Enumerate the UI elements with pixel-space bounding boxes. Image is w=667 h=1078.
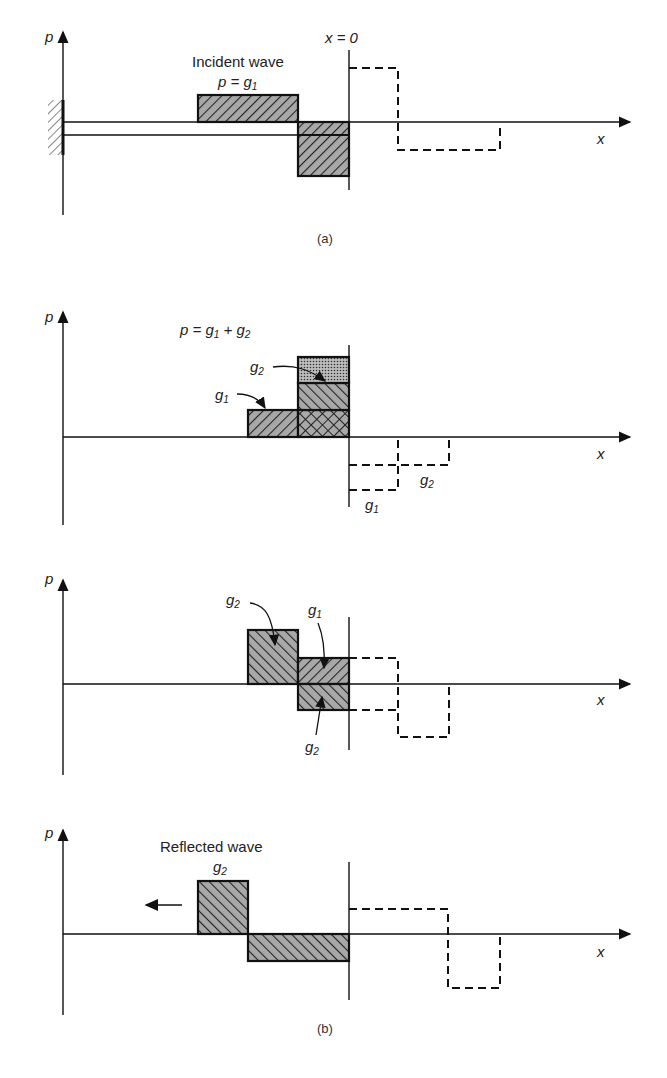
dashed-g1-label: g1 — [365, 496, 379, 515]
panel-b1: p x p = g1 + g2 g2 g1 g2 g1 — [44, 308, 630, 525]
superposition-eq: p = g1 + g2 — [179, 321, 251, 340]
incident-pulse-negative — [298, 122, 349, 176]
g2-bottom-label: g2 — [305, 738, 319, 757]
g2-reflected-pulse — [248, 630, 298, 684]
g2-top-label: g2 — [226, 591, 240, 610]
incident-wave-title: Incident wave — [192, 53, 284, 70]
virtual-upper-dashed — [349, 658, 449, 737]
g2-label: g2 — [250, 358, 264, 377]
g2-cancel-part — [298, 684, 349, 710]
x-axis-label: x — [596, 130, 605, 147]
dashed-g2-label: g2 — [420, 471, 434, 490]
caption-a: (a) — [317, 231, 333, 246]
x-axis-label: x — [596, 943, 605, 960]
panel-b3: p x Reflected wave g2 (b) — [44, 824, 630, 1036]
panel-a: p x x = 0 Incident wave p = g1 (a) — [44, 28, 630, 246]
p-axis-label: p — [44, 824, 53, 841]
reflected-pulse-negative — [248, 934, 349, 961]
wave-reflection-diagram: p x x = 0 Incident wave p = g1 (a) p x p… — [0, 0, 667, 1078]
virtual-wave-dashed — [349, 68, 500, 150]
reflected-wave-title: Reflected wave — [160, 838, 263, 855]
overlap-region — [298, 410, 349, 437]
g2-reflected-part — [298, 383, 349, 410]
g1-pointer-arrow — [237, 394, 265, 408]
boundary-label: x = 0 — [324, 29, 359, 46]
g1-remaining-part — [298, 658, 349, 684]
caption-b: (b) — [317, 1021, 333, 1036]
incident-pulse-positive — [198, 95, 298, 122]
p-axis-label: p — [44, 28, 53, 45]
virtual-wave-dashed — [349, 909, 500, 988]
x-axis-label: x — [596, 691, 605, 708]
reflected-pulse-positive — [198, 881, 248, 934]
rigid-wall — [48, 100, 63, 155]
p-axis-label: p — [44, 570, 53, 587]
incident-wave-eq: p = g1 — [217, 73, 257, 92]
g1-label: g1 — [215, 386, 229, 405]
panel-b2: p x g2 g1 g2 — [44, 570, 630, 775]
x-axis-label: x — [596, 445, 605, 462]
g2-label: g2 — [213, 858, 227, 877]
p-axis-label: p — [44, 308, 53, 325]
g1-label: g1 — [308, 601, 322, 620]
g1-pulse — [248, 410, 298, 437]
